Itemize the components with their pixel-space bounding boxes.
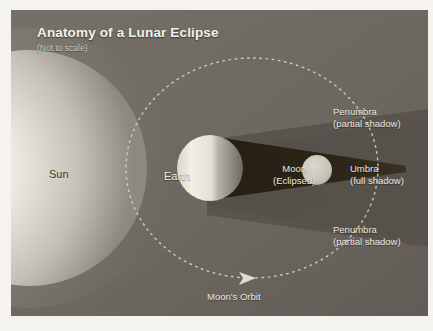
penumbra-top-label-line2: (partial shadow) <box>333 118 401 130</box>
moon-orbit-label: Moon's Orbit <box>207 291 261 303</box>
penumbra-bottom-label-line2: (partial shadow) <box>333 236 401 248</box>
moon-label: Moon (Eclipsed) <box>273 163 315 186</box>
moon-label-line1: Moon <box>273 163 315 175</box>
umbra-label-line2: (full shadow) <box>350 175 404 187</box>
moon-label-line2: (Eclipsed) <box>273 175 315 187</box>
sun-label: Sun <box>49 168 69 181</box>
figure-subtitle: (Not to scale) <box>37 43 219 53</box>
penumbra-bottom-label: Penumbra (partial shadow) <box>333 224 401 247</box>
title-block: Anatomy of a Lunar Eclipse (Not to scale… <box>37 25 219 53</box>
penumbra-top-label: Penumbra (partial shadow) <box>333 106 401 129</box>
earth-disk <box>177 135 243 201</box>
earth-label: Earth <box>164 170 190 183</box>
penumbra-top-label-line1: Penumbra <box>333 106 401 118</box>
figure-title: Anatomy of a Lunar Eclipse <box>37 25 219 40</box>
lunar-eclipse-figure: Anatomy of a Lunar Eclipse (Not to scale… <box>0 0 433 331</box>
umbra-label: Umbra (full shadow) <box>350 163 404 186</box>
umbra-label-line1: Umbra <box>350 163 404 175</box>
penumbra-bottom-label-line1: Penumbra <box>333 224 401 236</box>
diagram-panel: Anatomy of a Lunar Eclipse (Not to scale… <box>11 10 428 316</box>
